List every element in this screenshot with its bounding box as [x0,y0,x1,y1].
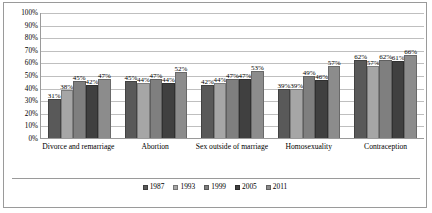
bar-groups: 31%38%45%42%47%45%44%47%44%52%42%44%47%4… [41,13,424,138]
x-axis-category-label: Divorce and remarriage [40,142,117,174]
bar-value-label: 61% [392,54,405,62]
x-axis-category-label: Sex outside of marriage [194,142,271,174]
legend-label: 1987 [150,183,165,191]
bar-value-label: 57% [367,59,380,67]
bar-value-label: 44% [162,76,175,84]
legend-label: 1999 [211,183,226,191]
bar-value-label: 45% [124,74,137,82]
legend-swatch-icon [266,185,271,190]
legend-item[interactable]: 1993 [173,183,195,191]
y-axis: 100%90%80%70%60%50%40%30%20%10%0% [6,13,38,139]
bar-value-label: 66% [404,48,417,56]
bar[interactable]: 45% [125,81,138,138]
bar-value-label: 42% [201,78,214,86]
bar[interactable]: 42% [86,85,99,138]
chart-legend: 19871993199920052011 [4,183,426,191]
y-axis-tick-label: 20% [6,110,38,117]
bar-group: 31%38%45%42%47% [41,13,118,138]
bar[interactable]: 47% [150,79,163,138]
y-axis-tick-label: 80% [6,35,38,42]
bar-value-label: 62% [354,53,367,61]
bar-value-label: 47% [239,72,252,80]
y-axis-tick-label: 10% [6,123,38,130]
chart-container: 100%90%80%70%60%50%40%30%20%10%0% 31%38%… [3,2,427,208]
bar[interactable]: 57% [367,66,380,138]
x-axis: Divorce and remarriageAbortionSex outsid… [40,142,424,174]
x-axis-category-label: Abortion [117,142,194,174]
legend-swatch-icon [173,185,178,190]
bar-value-label: 47% [98,72,111,80]
bar-value-label: 38% [60,83,73,91]
bar-value-label: 31% [48,92,61,100]
bar-group-bars: 62%57%62%61%66% [347,13,424,138]
plot-area: 31%38%45%42%47%45%44%47%44%52%42%44%47%4… [40,13,424,139]
bar-value-label: 47% [226,72,239,80]
legend-swatch-icon [235,185,240,190]
bar[interactable]: 61% [392,61,405,138]
bar[interactable]: 62% [379,60,392,138]
y-axis-tick-label: 90% [6,22,38,29]
bar-group: 42%44%47%47%53% [194,13,271,138]
bar[interactable]: 57% [328,66,341,138]
y-axis-tick-label: 60% [6,60,38,67]
bar[interactable]: 45% [73,81,86,138]
bar[interactable]: 53% [251,71,264,138]
y-axis-tick-label: 70% [6,47,38,54]
bar[interactable]: 38% [61,90,74,138]
bar[interactable]: 39% [278,89,291,138]
legend-label: 2011 [273,183,288,191]
bar[interactable]: 66% [404,55,417,138]
bar[interactable]: 49% [303,76,316,138]
bar-value-label: 39% [290,82,303,90]
bar[interactable]: 52% [175,72,188,138]
bar-value-label: 44% [137,76,150,84]
legend-swatch-icon [143,185,148,190]
bar-value-label: 49% [303,69,316,77]
bar[interactable]: 44% [162,83,175,138]
bar[interactable]: 44% [137,83,150,138]
bar[interactable]: 47% [226,79,239,138]
bar-group: 45%44%47%44%52% [118,13,195,138]
bar[interactable]: 46% [315,80,328,138]
bar[interactable]: 31% [48,99,61,138]
x-axis-category-label: Homosexuality [270,142,347,174]
bar-value-label: 45% [73,74,86,82]
bar-value-label: 62% [379,53,392,61]
legend-swatch-icon [204,185,209,190]
bar-value-label: 53% [251,64,264,72]
x-axis-category-label: Contraception [347,142,424,174]
bar[interactable]: 47% [239,79,252,138]
chart-plot-wrapper: 100%90%80%70%60%50%40%30%20%10%0% 31%38%… [4,3,426,207]
bar-group: 39%39%49%46%57% [271,13,348,138]
legend-item[interactable]: 2005 [235,183,257,191]
y-axis-tick-label: 40% [6,85,38,92]
legend-item[interactable]: 1987 [143,183,165,191]
bar[interactable]: 62% [354,60,367,138]
bar-value-label: 39% [278,82,291,90]
bar[interactable]: 39% [290,89,303,138]
bar-group-bars: 42%44%47%47%53% [194,13,271,138]
bar-value-label: 46% [315,73,328,81]
legend-label: 2005 [242,183,257,191]
y-axis-tick-label: 30% [6,98,38,105]
bar-group: 62%57%62%61%66% [347,13,424,138]
legend-divider [12,178,420,179]
legend-item[interactable]: 1999 [204,183,226,191]
bar[interactable]: 47% [98,79,111,138]
y-axis-tick-label: 50% [6,73,38,80]
bar-group-bars: 39%39%49%46%57% [271,13,348,138]
bar-value-label: 44% [214,76,227,84]
bar[interactable]: 42% [201,85,214,138]
bar-value-label: 52% [174,65,187,73]
legend-label: 1993 [180,183,195,191]
bar[interactable]: 44% [214,83,227,138]
y-axis-tick-label: 100% [6,10,38,17]
bar-group-bars: 45%44%47%44%52% [118,13,195,138]
bar-value-label: 57% [328,59,341,67]
bar-value-label: 47% [149,72,162,80]
y-axis-tick-label: 0% [6,136,38,143]
legend-item[interactable]: 2011 [266,183,288,191]
bar-value-label: 42% [85,78,98,86]
bar-group-bars: 31%38%45%42%47% [41,13,118,138]
